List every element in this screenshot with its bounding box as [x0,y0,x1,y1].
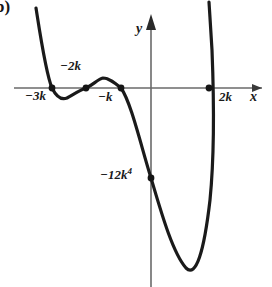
marker-root-2k [206,85,213,92]
polynomial-curve [36,2,213,270]
x-axis-label: x [250,90,257,104]
y-intercept-label: −12k4 [100,168,132,181]
y-intercept-base: −12k [100,167,127,182]
graph-canvas [0,0,272,287]
marker-root-neg3k [49,85,56,92]
marker-root-negk [118,85,125,92]
y-intercept-exponent: 4 [127,166,132,176]
y-axis [146,14,156,287]
tick-label-neg3k: −3k [25,89,46,102]
tick-label-neg2k: −2k [60,59,81,72]
y-axis-arrow-icon [146,14,156,30]
polynomial-graph-figure: b) −3k −2k −k 2k −12k4 y x [0,0,272,287]
tick-label-2k: 2k [219,90,232,103]
marker-y-intercept [148,175,155,182]
marker-root-neg2k [83,85,90,92]
y-axis-label: y [136,22,142,36]
tick-label-negk: −k [98,90,112,103]
part-label: b) [0,0,10,15]
